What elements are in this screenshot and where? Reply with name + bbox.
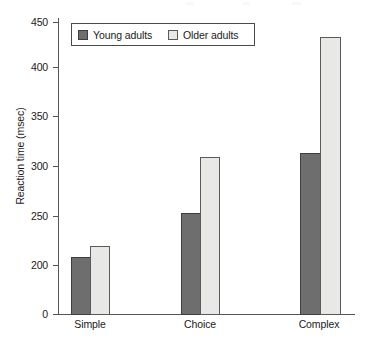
y-tick-0 (53, 314, 58, 315)
legend-swatch-icon-young (78, 30, 88, 40)
y-tick-label-400: 400 (14, 62, 48, 72)
bar-chart: Reaction time (msec) 450 400 350 300 250… (0, 0, 371, 344)
legend-item-young-adults: Young adults (78, 28, 152, 42)
legend-label-older: Older adults (183, 30, 238, 41)
legend-swatch-icon-older (168, 30, 178, 40)
y-tick-450 (53, 22, 58, 23)
scan-artifact (186, 2, 194, 5)
bar-complex-young (300, 153, 321, 315)
bar-simple-young (71, 257, 91, 315)
y-tick-200 (53, 265, 58, 266)
legend-item-older-adults: Older adults (168, 28, 238, 42)
scan-artifact (292, 2, 301, 5)
bar-simple-older (90, 246, 110, 315)
bar-choice-older (200, 157, 220, 315)
y-tick-300 (53, 166, 58, 167)
y-tick-label-200: 200 (14, 260, 48, 270)
bar-choice-young (181, 213, 201, 315)
x-category-label-choice: Choice (155, 318, 245, 330)
y-tick-label-450: 450 (14, 17, 48, 27)
y-tick-350 (53, 116, 58, 117)
legend: Young adults Older adults (71, 23, 255, 46)
y-tick-label-0: 0 (14, 309, 48, 319)
y-tick-250 (53, 216, 58, 217)
x-category-label-simple: Simple (45, 318, 135, 330)
y-tick-400 (53, 67, 58, 68)
x-category-label-complex: Complex (274, 318, 364, 330)
y-tick-label-350: 350 (14, 111, 48, 121)
legend-label-young: Young adults (93, 30, 152, 41)
scan-artifact (243, 2, 250, 5)
y-tick-label-300: 300 (14, 161, 48, 171)
y-axis-line (58, 18, 59, 315)
y-tick-label-250: 250 (14, 211, 48, 221)
bar-complex-older (320, 37, 341, 315)
